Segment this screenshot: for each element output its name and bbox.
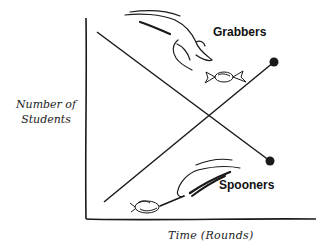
y-axis <box>86 18 87 219</box>
spooners-end-dot <box>266 157 275 166</box>
spooners-line <box>97 32 270 161</box>
y-axis-label-line-2: Students <box>12 112 80 127</box>
wrapped-candy-icon <box>205 71 246 83</box>
spooners-label: Spooners <box>219 178 274 192</box>
grabbers-end-dot <box>270 58 279 67</box>
y-axis-label-line-1: Number of <box>12 97 80 112</box>
grabbing-hand-icon <box>125 11 212 70</box>
spoon-candy-icon <box>130 201 159 213</box>
grabbers-label: Grabbers <box>213 25 266 39</box>
x-axis-label: Time (Rounds) <box>168 229 254 242</box>
y-axis-label: Number of Students <box>12 97 80 127</box>
x-axis <box>86 219 316 220</box>
